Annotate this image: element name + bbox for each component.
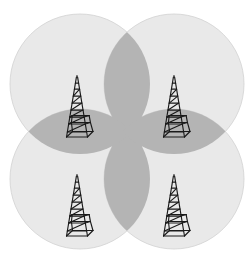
coverage-diagram-canvas [0,0,252,262]
cell-coverage-diagram [0,0,252,262]
